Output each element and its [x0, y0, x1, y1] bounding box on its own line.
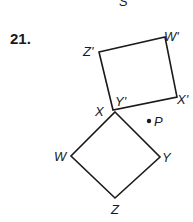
problem-number: 21. — [10, 30, 31, 47]
label-z: Z — [110, 202, 120, 217]
label-x-prime: X' — [176, 92, 189, 107]
preimage-square — [71, 112, 160, 198]
label-y: Y — [162, 150, 172, 165]
transformation-diagram: S 21. P Z' W' X' Y' X Y Z W — [0, 0, 193, 222]
point-p-dot — [147, 119, 151, 123]
partial-label-top: S — [119, 0, 128, 9]
label-y-prime: Y' — [115, 94, 127, 109]
label-w: W — [54, 149, 68, 164]
label-p: P — [154, 114, 163, 129]
label-x: X — [94, 104, 105, 119]
label-w-prime: W' — [164, 29, 179, 44]
label-z-prime: Z' — [82, 44, 94, 59]
image-square — [99, 37, 177, 110]
